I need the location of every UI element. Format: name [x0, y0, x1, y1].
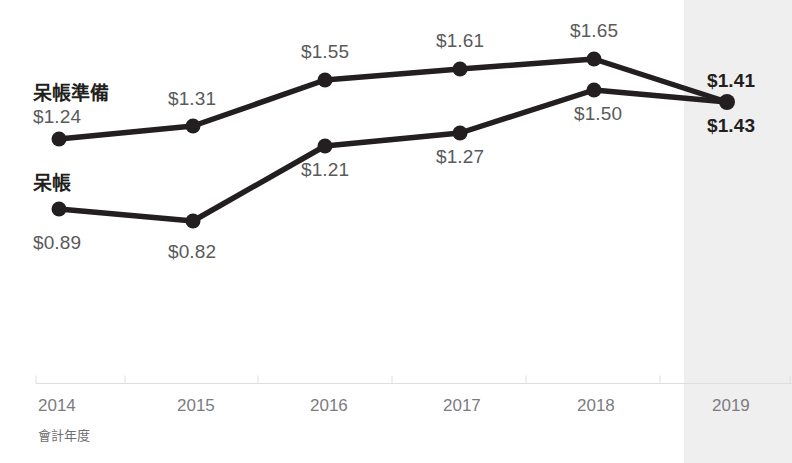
x-tick-label-2018: 2018	[577, 396, 615, 416]
series-line-upper	[59, 59, 727, 139]
x-tick-label-2019: 2019	[712, 396, 750, 416]
value-label-lower-2018: $1.50	[574, 103, 622, 125]
value-label-lower-2019: $1.43	[707, 115, 755, 137]
value-label-lower-2016: $1.21	[301, 159, 349, 181]
x-axis-ticks	[36, 376, 790, 384]
line-chart: 呆帳準備 呆帳 $1.24 $1.31 $1.55 $1.61 $1.65 $1…	[0, 0, 792, 463]
value-label-upper-2017: $1.61	[436, 30, 484, 52]
x-tick-label-2015: 2015	[177, 396, 215, 416]
series-line-lower	[59, 90, 727, 221]
x-tick-label-2016: 2016	[310, 396, 348, 416]
value-label-upper-2016: $1.55	[301, 41, 349, 63]
series-marker-converged-2019	[719, 94, 735, 110]
value-label-upper-2018: $1.65	[570, 20, 618, 42]
x-axis-title: 會計年度	[38, 425, 90, 444]
x-tick-label-2017: 2017	[443, 396, 481, 416]
series-markers-lower	[52, 83, 602, 229]
value-label-upper-2014: $1.24	[33, 106, 81, 128]
value-label-lower-2014: $0.89	[33, 232, 81, 254]
value-label-lower-2017: $1.27	[436, 146, 484, 168]
series-callout-upper: 呆帳準備	[33, 78, 109, 105]
value-label-upper-2015: $1.31	[168, 88, 216, 110]
value-label-lower-2015: $0.82	[168, 241, 216, 263]
plot-area	[0, 0, 792, 463]
series-callout-lower: 呆帳	[33, 168, 71, 195]
x-tick-label-2014: 2014	[38, 396, 76, 416]
value-label-upper-2019: $1.41	[707, 70, 755, 92]
